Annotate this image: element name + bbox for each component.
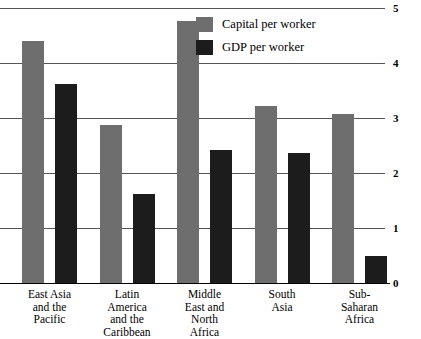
bar [332,114,354,283]
category-label-line: America [84,301,170,314]
grouped-bar-chart: 012345 Capital per worker GDP per worker… [0,0,421,339]
category-label-line: Asia [239,301,325,314]
category-axis: East Asiaand thePacificLatinAmericaand t… [0,288,421,339]
category-label-line: and the [84,313,170,326]
legend-swatch-icon-capital [196,17,213,32]
bar [177,21,199,283]
legend-item-gdp-per-worker: GDP per worker [196,37,376,57]
bar [210,150,232,283]
category-label-line: Sub- [317,288,403,301]
bar [365,256,387,283]
legend-item-capital-per-worker: Capital per worker [196,14,376,34]
category-label: MiddleEast andNorthAfrica [162,288,248,338]
category-label-line: Pacific [7,313,93,326]
category-label-line: Saharan [317,301,403,314]
chart-legend: Capital per worker GDP per worker [196,14,376,60]
axis-baseline [0,283,390,284]
y-tick-label: 5 [393,3,399,14]
category-label: East Asiaand thePacific [7,288,93,326]
gridline [0,8,385,9]
bar [133,194,155,283]
category-label-line: Latin [84,288,170,301]
y-tick-label: 2 [393,168,399,179]
category-label-line: and the [7,301,93,314]
category-label: Sub-SaharanAfrica [317,288,403,326]
legend-label-gdp: GDP per worker [222,41,304,54]
category-label-line: Africa [317,313,403,326]
bar [255,106,277,283]
y-tick-label: 3 [393,113,399,124]
y-tick-label: 0 [393,278,399,289]
category-label: LatinAmericaand theCaribbean [84,288,170,338]
category-label-line: East Asia [7,288,93,301]
y-tick-label: 1 [393,223,399,234]
bar [100,125,122,283]
category-label-line: North [162,313,248,326]
category-label-line: East and [162,301,248,314]
bar [22,41,44,283]
y-tick-label: 4 [393,58,399,69]
bar [55,84,77,283]
category-label-line: Middle [162,288,248,301]
category-label-line: Africa [162,326,248,339]
legend-swatch-icon-gdp [196,40,213,55]
category-label: SouthAsia [239,288,325,313]
legend-label-capital: Capital per worker [222,18,316,31]
category-label-line: South [239,288,325,301]
category-label-line: Caribbean [84,326,170,339]
bar [288,153,310,283]
